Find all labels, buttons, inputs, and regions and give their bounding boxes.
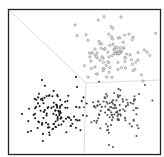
data-point [123,34,125,36]
data-point [108,144,110,146]
data-point [117,88,119,90]
data-point [44,109,46,111]
data-point [132,103,134,105]
data-point [48,131,50,133]
data-point [124,117,126,119]
data-point [65,131,67,133]
data-point [89,56,91,58]
data-point [46,112,48,114]
data-point [104,105,106,107]
data-point [133,95,135,97]
data-point [53,102,55,104]
data-point [121,50,123,52]
data-point [47,106,49,108]
data-point [106,95,108,97]
data-point [124,110,126,112]
data-point [40,110,42,112]
data-point [111,55,113,57]
data-point [124,119,126,121]
data-point [119,89,121,91]
data-point [83,65,85,67]
data-point [62,120,64,122]
data-point [104,48,106,50]
data-point [92,101,94,103]
data-point [105,123,107,125]
data-point [37,127,39,129]
data-point [90,121,92,123]
data-point [108,132,110,134]
data-point [71,123,73,125]
data-point [40,98,42,100]
data-point [119,47,121,49]
data-point [118,53,120,55]
data-point [129,123,131,125]
data-point [110,36,112,38]
data-point [74,24,76,26]
data-point [87,39,89,41]
data-point [27,131,29,133]
data-point [95,55,97,57]
data-point [78,119,80,121]
data-point [114,104,116,106]
data-point [143,49,145,51]
data-point [60,117,62,119]
data-point [106,114,108,116]
data-point [48,126,50,128]
data-point [56,104,58,106]
data-point [70,125,72,127]
data-point [124,60,126,62]
data-point [37,96,39,98]
data-point [113,49,115,51]
data-point [75,119,77,121]
data-point [86,102,88,104]
data-point [112,116,114,118]
data-point [117,94,119,96]
data-point [106,103,108,105]
data-point [55,120,57,122]
data-point [116,111,118,113]
data-point [44,85,46,87]
data-point [55,114,57,116]
data-point [106,129,108,131]
data-point [59,107,61,109]
data-point [55,110,57,112]
data-point [83,106,85,108]
data-point [108,56,110,58]
data-point [76,34,78,36]
data-point [122,41,124,43]
data-point [28,108,30,110]
data-point [113,92,115,94]
data-point [101,43,103,45]
data-point [122,108,124,110]
data-point [107,51,109,53]
data-point [109,102,111,104]
data-point [39,105,41,107]
data-point [132,36,134,38]
data-point [130,59,132,61]
data-point [99,127,101,129]
data-point [107,125,109,127]
data-point [131,63,133,65]
data-point [99,59,101,61]
data-point [102,68,104,70]
data-point [91,52,93,54]
data-point [44,97,46,99]
data-point [132,109,134,111]
data-point [37,102,39,104]
data-point [116,46,118,48]
data-point [106,76,108,78]
data-point [124,57,126,59]
data-point [110,111,112,113]
data-point [111,76,113,78]
data-point [122,98,124,100]
data-point [120,16,122,18]
data-point [109,67,111,69]
data-point [105,93,107,95]
data-point [42,133,44,135]
data-point [104,97,106,99]
data-point [45,122,47,124]
scatter-plot [0,0,164,157]
data-point [111,119,113,121]
data-point [137,52,139,54]
data-point [41,124,43,126]
